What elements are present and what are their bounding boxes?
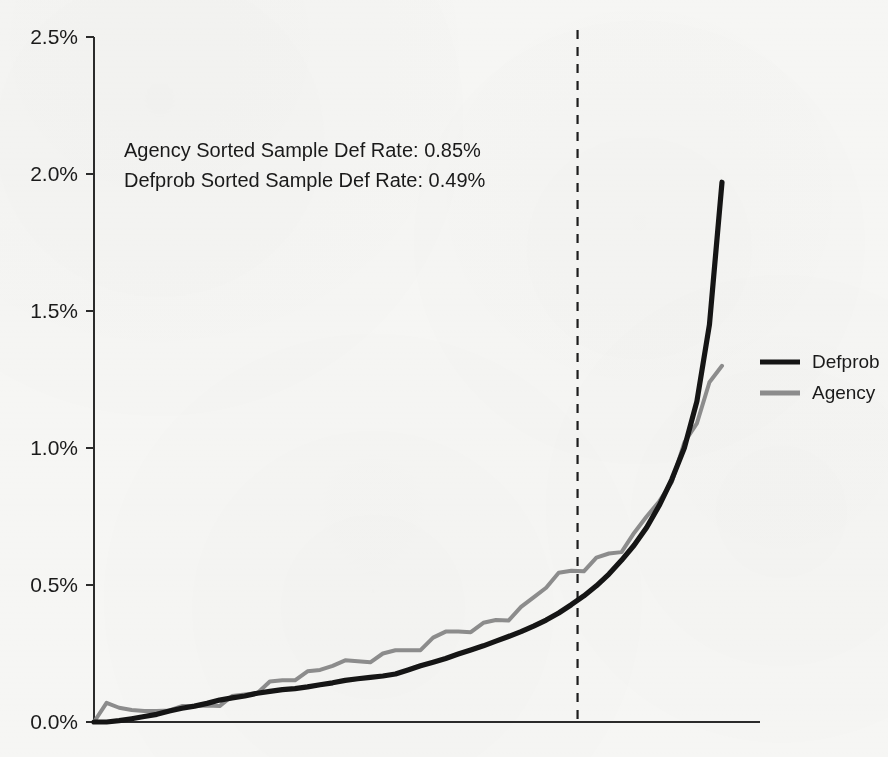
y-tick-label-2: 1.0% xyxy=(30,436,78,459)
legend-item-defprob[interactable]: Defprob xyxy=(760,351,880,372)
y-tick-label-3: 1.5% xyxy=(30,299,78,322)
chart-legend: Defprob Agency xyxy=(760,351,880,403)
chart-container: 0.0% 0.5% 1.0% 1.5% 2.0% 2.5% Agency Sor… xyxy=(0,0,888,757)
y-axis-tick-labels: 0.0% 0.5% 1.0% 1.5% 2.0% 2.5% xyxy=(30,25,78,733)
annotation-defprob-rate: Defprob Sorted Sample Def Rate: 0.49% xyxy=(124,169,486,191)
annotation-agency-rate: Agency Sorted Sample Def Rate: 0.85% xyxy=(124,139,481,161)
y-tick-label-0: 0.0% xyxy=(30,710,78,733)
y-tick-label-5: 2.5% xyxy=(30,25,78,48)
annotation-block: Agency Sorted Sample Def Rate: 0.85% Def… xyxy=(124,139,486,191)
y-tick-label-4: 2.0% xyxy=(30,162,78,185)
y-axis-ticks xyxy=(86,37,94,722)
legend-label-agency: Agency xyxy=(812,382,876,403)
legend-label-defprob: Defprob xyxy=(812,351,880,372)
line-chart-plot: 0.0% 0.5% 1.0% 1.5% 2.0% 2.5% Agency Sor… xyxy=(0,0,888,757)
series-line-defprob xyxy=(94,182,722,722)
legend-item-agency[interactable]: Agency xyxy=(760,382,876,403)
y-tick-label-1: 0.5% xyxy=(30,573,78,596)
